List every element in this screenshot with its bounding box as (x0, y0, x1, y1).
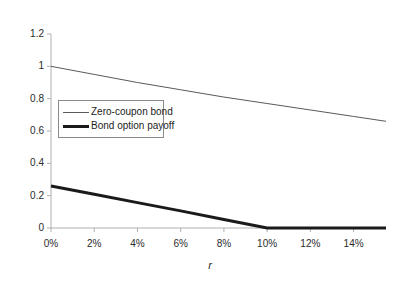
chart-legend: Zero-coupon bond Bond option payoff (58, 100, 164, 138)
x-axis-tick-label: 10% (257, 239, 277, 249)
series-line (51, 186, 386, 228)
y-axis-tick-label: 0.6 (10, 126, 44, 136)
x-axis-tick-label: 2% (87, 239, 101, 249)
x-axis-tick-label: 8% (217, 239, 231, 249)
legend-swatch-zero-coupon-bond (63, 112, 89, 113)
y-axis-tick-label: 1 (10, 61, 44, 71)
x-axis-tick-label: 4% (130, 239, 144, 249)
legend-swatch-bond-option-payoff (63, 125, 89, 128)
data-series-group (51, 66, 386, 228)
x-axis-tick-label: 0% (44, 239, 58, 249)
legend-item-bond-option-payoff: Bond option payoff (63, 119, 158, 133)
x-axis-title: r (208, 260, 212, 271)
y-axis-ticks (47, 34, 51, 228)
x-axis-tick-label: 12% (300, 239, 320, 249)
chart-figure: 00.20.40.60.811.2 0%2%4%6%8%10%12%14% r … (0, 0, 400, 281)
y-axis-tick-label: 0 (10, 223, 44, 233)
y-axis-tick-label: 0.4 (10, 158, 44, 168)
y-axis-tick-label: 0.8 (10, 94, 44, 104)
legend-label-bond-option-payoff: Bond option payoff (91, 121, 174, 131)
x-axis-tick-label: 6% (173, 239, 187, 249)
x-axis-tick-label: 14% (344, 239, 364, 249)
legend-item-zero-coupon-bond: Zero-coupon bond (63, 105, 158, 119)
y-axis-tick-label: 1.2 (10, 29, 44, 39)
plot-canvas (0, 0, 400, 281)
y-axis-tick-label: 0.2 (10, 191, 44, 201)
legend-label-zero-coupon-bond: Zero-coupon bond (91, 107, 173, 117)
